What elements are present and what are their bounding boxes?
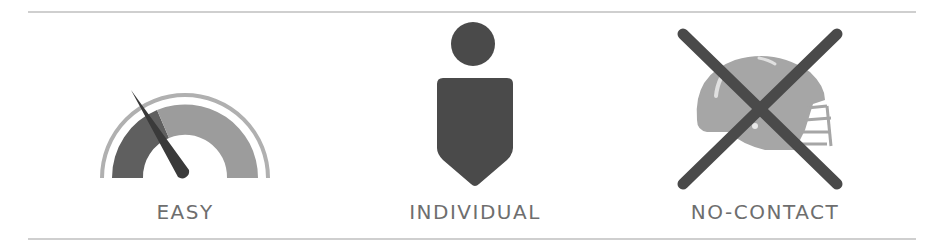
person-icon <box>355 20 595 200</box>
feature-individual: INDIVIDUAL <box>355 20 595 235</box>
feature-no-contact: NO-CONTACT <box>645 20 885 235</box>
feature-easy: EASY <box>65 20 305 235</box>
bottom-divider <box>28 238 916 240</box>
crossed-out-football-helmet-icon <box>645 20 885 200</box>
feature-label-no-contact: NO-CONTACT <box>645 200 885 224</box>
feature-label-easy: EASY <box>65 200 305 224</box>
feature-label-individual: INDIVIDUAL <box>355 200 595 224</box>
speedometer-gauge-icon <box>65 20 305 200</box>
top-divider <box>28 11 916 13</box>
